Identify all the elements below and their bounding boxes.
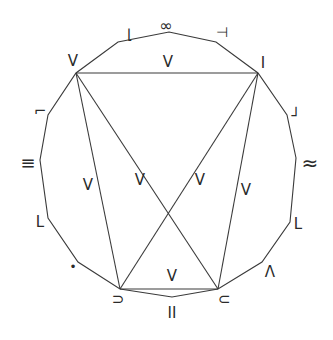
- edge-label: V: [83, 176, 94, 194]
- vertex-label: V: [68, 52, 79, 70]
- vertex-label: II: [168, 304, 177, 322]
- vertex-label: ⊂: [218, 290, 231, 308]
- outer-polygon: [40, 32, 296, 297]
- vertex-label: ┘: [290, 106, 300, 125]
- vertex-label: Λ: [265, 263, 276, 281]
- edge-label: V: [163, 53, 174, 71]
- vertex-label: ⌊: [127, 26, 132, 42]
- vertex-label: ∞: [159, 16, 172, 35]
- vertex-label: ≡: [20, 152, 35, 173]
- edge-label: V: [195, 171, 206, 189]
- edge-label: V: [167, 267, 178, 285]
- inner-edge: [218, 73, 258, 289]
- vertex-label: L: [294, 215, 303, 233]
- vertex-label: ≈: [302, 151, 319, 175]
- vertex-label: L: [36, 213, 45, 231]
- edge-labels: VVVVVV: [83, 53, 252, 285]
- polygon-diagram: VVVVVV ∞⊣I┘≈LΛ⊂II⊃•L≡⌐V⌊: [0, 0, 333, 340]
- vertex-label: ⌐: [34, 102, 47, 120]
- edge-label: V: [241, 181, 252, 199]
- vertex-label: ⊃: [112, 290, 125, 308]
- edge-label: V: [135, 171, 146, 189]
- vertex-label: •: [69, 260, 76, 274]
- vertex-label: I: [261, 54, 265, 72]
- inner-edges: [76, 73, 258, 289]
- vertex-label: ⊣: [216, 24, 228, 40]
